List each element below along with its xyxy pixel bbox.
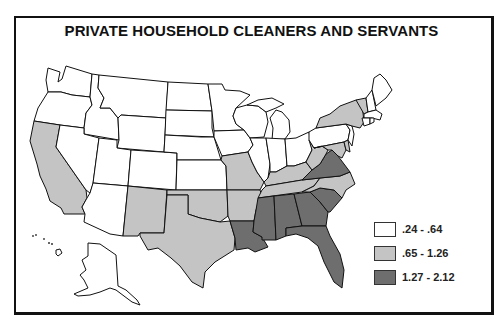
state-nm[interactable] — [123, 186, 167, 236]
legend-swatch-low — [374, 222, 396, 237]
state-ak[interactable] — [74, 243, 140, 305]
legend-label-low: .24 - .64 — [402, 223, 442, 235]
legend-label-high: 1.27 - 2.12 — [402, 271, 455, 283]
legend-item-mid: .65 - 1.26 — [374, 241, 455, 265]
legend-swatch-high — [374, 270, 396, 285]
state-ny[interactable] — [316, 100, 364, 128]
legend: .24 - .64 .65 - 1.26 1.27 - 2.12 — [374, 217, 455, 289]
state-me[interactable] — [372, 74, 392, 106]
state-fl[interactable] — [286, 226, 344, 288]
state-mi[interactable] — [270, 110, 290, 140]
state-ri[interactable] — [370, 118, 374, 124]
state-nd[interactable] — [166, 82, 212, 111]
state-ks[interactable] — [176, 160, 227, 190]
state-ct[interactable] — [362, 118, 370, 126]
state-co[interactable] — [128, 150, 177, 190]
legend-swatch-mid — [374, 246, 396, 261]
state-wy[interactable] — [117, 115, 166, 152]
state-hi[interactable] — [32, 234, 62, 256]
legend-item-low: .24 - .64 — [374, 217, 455, 241]
legend-label-mid: .65 - 1.26 — [402, 247, 448, 259]
legend-item-high: 1.27 - 2.12 — [374, 265, 455, 289]
state-sd[interactable] — [165, 110, 214, 137]
